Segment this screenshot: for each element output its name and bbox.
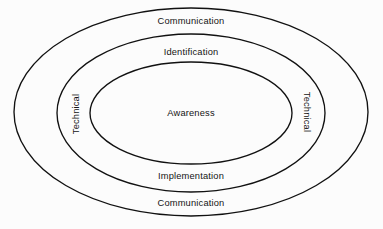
middle-ring-top-label: Identification bbox=[164, 48, 219, 57]
left-side-technical-label: Technical bbox=[72, 94, 81, 134]
center-awareness-label: Awareness bbox=[167, 109, 214, 118]
outer-ring-top-label: Communication bbox=[158, 17, 225, 26]
middle-ring-bottom-label: Implementation bbox=[158, 172, 224, 181]
outer-ring-bottom-label: Communication bbox=[158, 199, 225, 208]
concentric-ellipse-diagram: Communication Identification Technical T… bbox=[0, 0, 383, 229]
right-side-technical-label: Technical bbox=[301, 92, 310, 132]
